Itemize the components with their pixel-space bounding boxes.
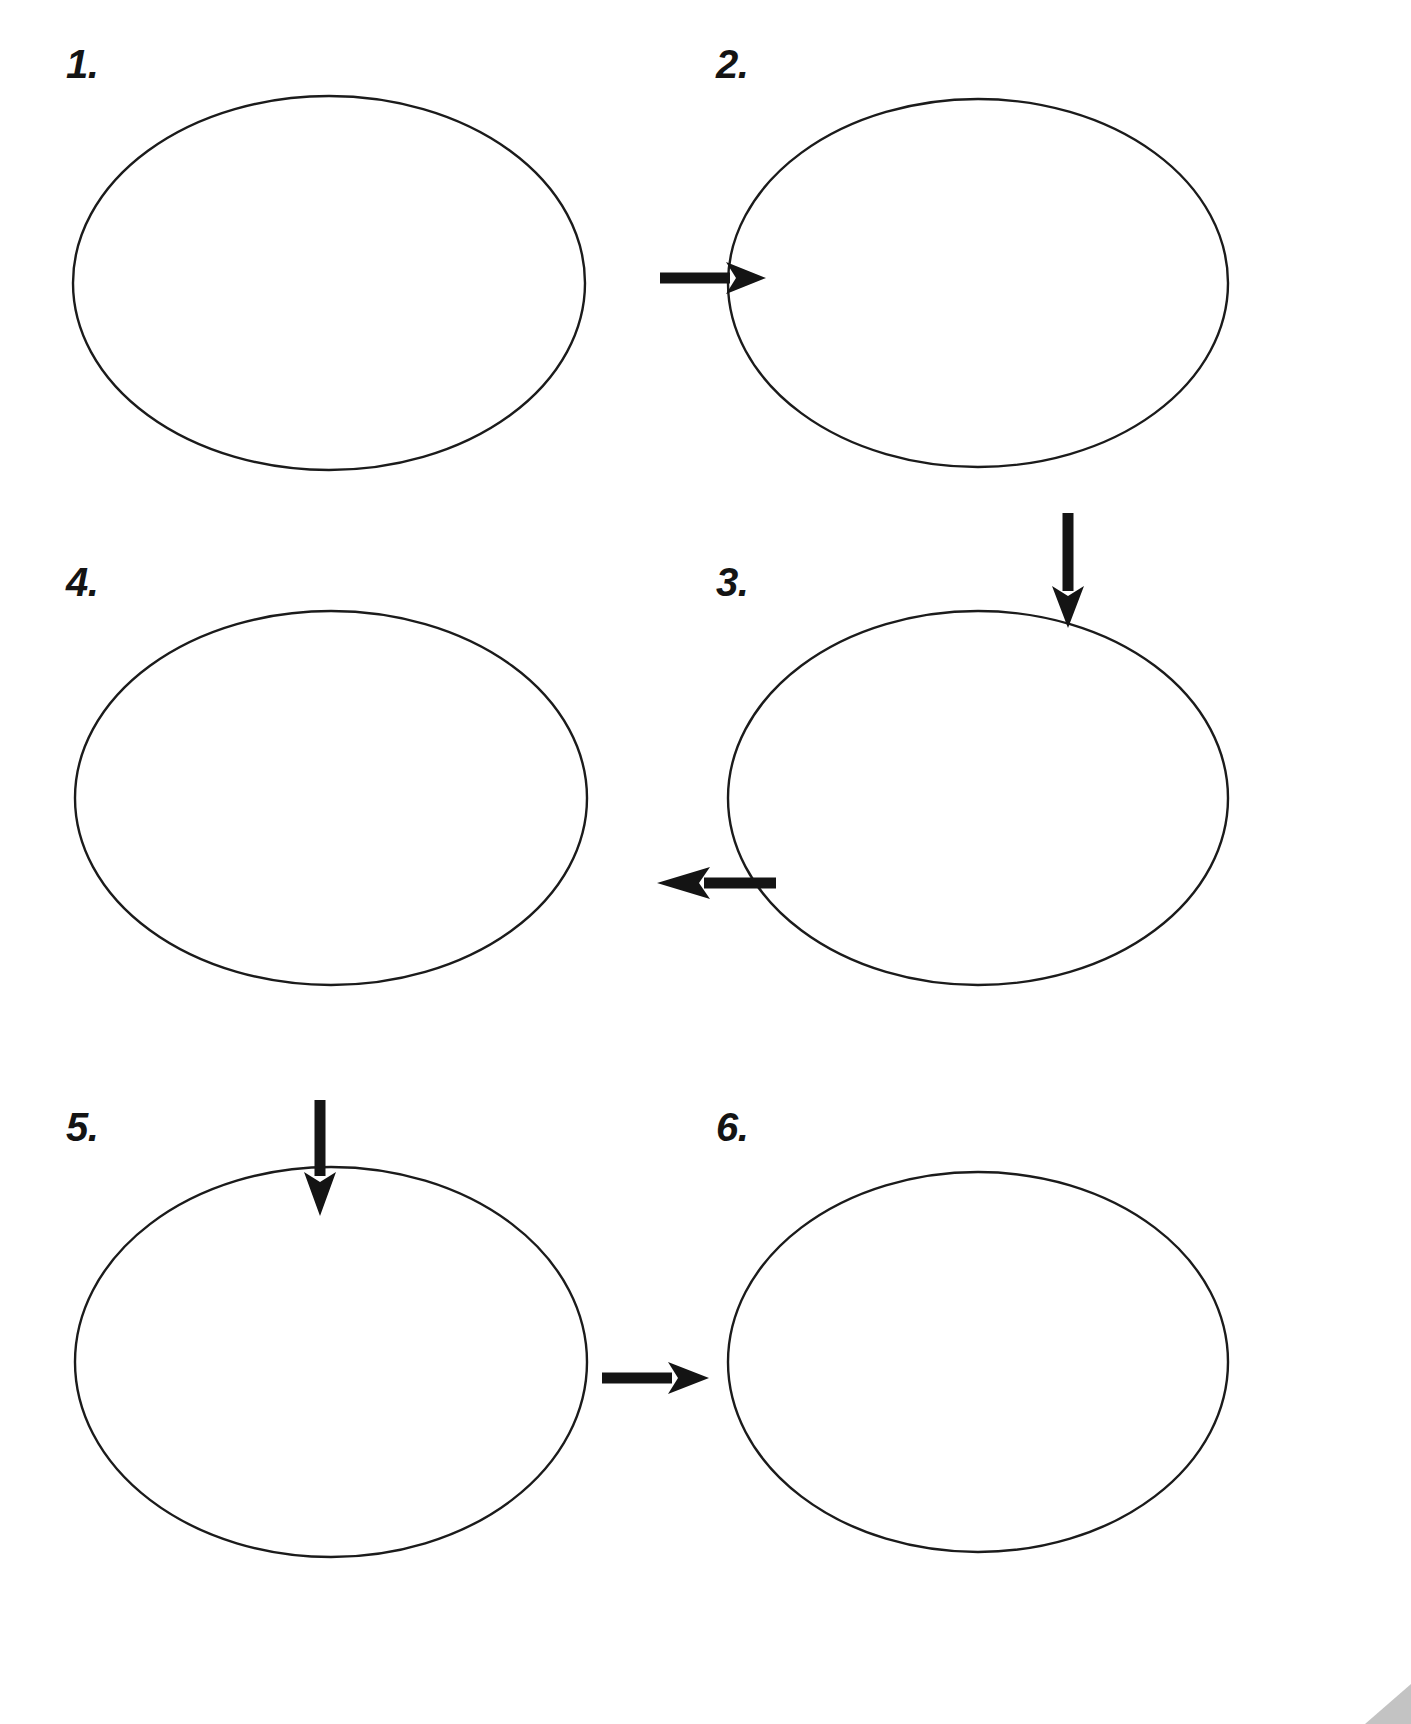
step-label-5: 5. xyxy=(66,1107,98,1147)
step-label-4: 4. xyxy=(66,562,98,602)
step-label-1: 1. xyxy=(66,44,98,84)
oval-step-3[interactable] xyxy=(728,611,1228,985)
oval-step-5[interactable] xyxy=(75,1167,587,1557)
oval-step-4[interactable] xyxy=(75,611,587,985)
step-label-6: 6. xyxy=(716,1107,748,1147)
worksheet-page: 1. 2. 3. 4. 5. 6. xyxy=(0,0,1411,1724)
oval-step-1[interactable] xyxy=(73,96,585,470)
arrow-step-5-to-step-6 xyxy=(602,1362,709,1394)
oval-step-2[interactable] xyxy=(728,99,1228,467)
cycle-diagram-canvas xyxy=(0,0,1411,1724)
oval-step-6[interactable] xyxy=(728,1172,1228,1552)
arrow-step-2-to-step-3 xyxy=(1052,513,1084,628)
step-label-3: 3. xyxy=(716,562,748,602)
step-label-2: 2. xyxy=(716,44,748,84)
page-corner-shadow-icon xyxy=(1365,1684,1411,1724)
